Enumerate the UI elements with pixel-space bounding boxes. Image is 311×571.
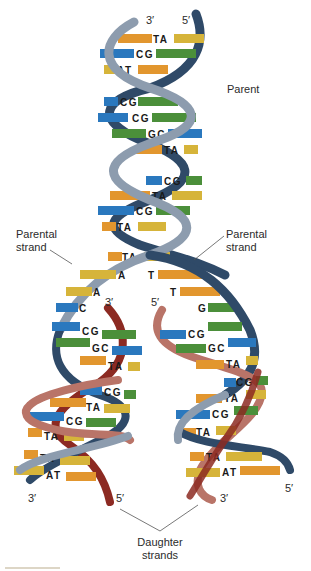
label-daughter-strands: strands xyxy=(142,549,179,561)
base-pair: TA xyxy=(108,361,124,372)
label-parental-strand-right: strand xyxy=(226,241,257,253)
unpaired-base: A xyxy=(93,287,102,298)
end-label-3prime: 3′ xyxy=(146,14,154,26)
end-label-3prime: 3′ xyxy=(220,492,228,504)
base-pair: CG xyxy=(212,409,230,420)
end-label-5prime: 5′ xyxy=(116,492,124,504)
unpaired-base: G xyxy=(198,303,207,314)
unpaired-base: T xyxy=(170,287,178,298)
end-label-5prime: 5′ xyxy=(151,296,159,308)
base-pair: CG xyxy=(120,97,138,108)
parent-helix: TA CG AT CG CG GC TA CG TA xyxy=(60,14,225,330)
end-label-5prime: 5′ xyxy=(285,482,293,494)
base-pair: TA xyxy=(164,145,180,156)
base-pair: TA xyxy=(153,34,169,45)
base-pair: CG xyxy=(132,113,150,124)
end-label-3prime: 3′ xyxy=(105,296,113,308)
end-label-5prime: 5′ xyxy=(182,14,190,26)
base-pair: CG xyxy=(164,176,182,187)
base-pair: TA xyxy=(86,402,102,413)
page-edge-bar xyxy=(5,567,60,569)
label-daughter-strands: Daughter xyxy=(137,536,183,548)
base-pair: CG xyxy=(104,387,122,398)
unpaired-base: A xyxy=(118,270,127,281)
end-label-3prime: 3′ xyxy=(28,492,36,504)
dna-replication-diagram: TA CG AT CG CG GC TA CG TA xyxy=(0,0,311,571)
base-pair: CG xyxy=(66,416,84,427)
base-pair: CG xyxy=(136,49,154,60)
base-pair: CG xyxy=(188,329,206,340)
leader-line xyxy=(160,505,198,531)
leader-line xyxy=(120,509,160,531)
base-pair: AT xyxy=(46,470,62,481)
left-daughter-helix: CG GC TA CG TA CG TA TA AT xyxy=(14,308,142,502)
label-parent: Parent xyxy=(227,83,259,95)
base-pair: CG xyxy=(136,206,154,217)
base-pair: TA xyxy=(226,359,242,370)
leader-line xyxy=(50,250,72,264)
label-parental-strand-left: Parental xyxy=(16,228,57,240)
base-pair: GC xyxy=(92,343,110,354)
base-pair: TA xyxy=(117,222,133,233)
label-parental-strand-right: Parental xyxy=(226,228,267,240)
unpaired-base: T xyxy=(148,270,156,281)
right-daughter-helix: CG GC TA CG TA CG TA TA AT xyxy=(157,310,290,500)
base-pair: CG xyxy=(82,326,100,337)
base-pair: AT xyxy=(222,467,238,478)
unpaired-base: C xyxy=(79,303,88,314)
base-pair: GC xyxy=(208,343,226,354)
leader-line xyxy=(194,236,224,260)
label-parental-strand-left: strand xyxy=(16,241,47,253)
right-parental-strand-dark-lower xyxy=(180,432,290,470)
